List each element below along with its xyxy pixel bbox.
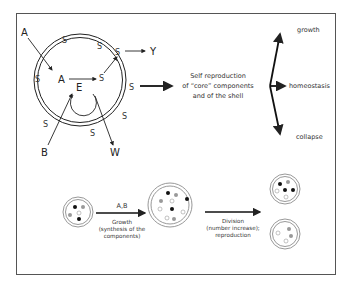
svg-text:Growth: Growth — [112, 219, 133, 225]
s-to-shell-arrow — [104, 57, 117, 73]
svg-text:S: S — [62, 36, 67, 45]
daughter-cell-2 — [270, 219, 300, 249]
outcome-homeostasis: homeostasis — [289, 82, 331, 90]
svg-text:S: S — [35, 75, 40, 84]
svg-text:components): components) — [104, 233, 141, 240]
svg-text:Division: Division — [222, 218, 245, 224]
process-text: Self reproduction of “core” components a… — [182, 72, 254, 100]
svg-text:S: S — [122, 112, 127, 121]
growth-caption: Growth (synthesis of the components) — [99, 219, 146, 240]
input-b-label: B — [41, 147, 48, 158]
outcome-collapse: collapse — [296, 133, 323, 141]
internal-e-label: E — [76, 82, 82, 93]
outcome-growth: growth — [297, 26, 320, 34]
svg-text:S: S — [99, 74, 104, 83]
input-a-label: A — [21, 27, 28, 38]
outcome-branches — [270, 34, 285, 134]
division-caption: Division (number increase); reproduction — [206, 218, 260, 239]
daughter-cell-1 — [270, 174, 300, 204]
svg-text:S: S — [97, 42, 102, 51]
cell-shell — [34, 34, 126, 126]
svg-text:(synthesis of the: (synthesis of the — [99, 226, 146, 233]
output-y-label: Y — [149, 46, 157, 57]
large-cell — [148, 183, 192, 227]
svg-text:(number increase);: (number increase); — [206, 225, 260, 231]
e-cycle — [70, 94, 96, 116]
growth-arrow-label: A,B — [117, 202, 128, 210]
autopoiesis-diagram: S S S S S S S S S A A Y E B W Self repro… — [0, 0, 348, 283]
svg-text:Self reproduction: Self reproduction — [190, 72, 246, 80]
input-b-arrow — [48, 94, 72, 145]
output-w-label: W — [110, 147, 120, 158]
internal-a-label: A — [58, 74, 65, 85]
output-w-arrow — [95, 96, 113, 145]
small-cell — [63, 197, 93, 227]
svg-text:S: S — [90, 129, 95, 138]
svg-text:of “core” components: of “core” components — [182, 82, 254, 90]
svg-text:and of the shell: and of the shell — [193, 92, 244, 100]
svg-text:S: S — [43, 120, 48, 129]
svg-text:S: S — [129, 83, 134, 92]
svg-text:reproduction: reproduction — [215, 232, 251, 239]
svg-text:S: S — [115, 48, 120, 57]
